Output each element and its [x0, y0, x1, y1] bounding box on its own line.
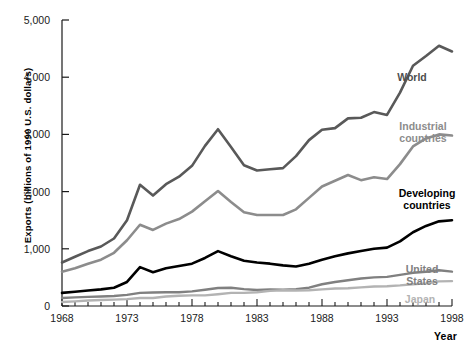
united-states-label: United States [402, 264, 443, 288]
y-tick-label: 4,000 [0, 71, 50, 83]
x-tick-label: 1978 [180, 312, 203, 324]
developing-countries-label: Developing countries [399, 188, 456, 212]
x-tick-label: 1998 [440, 312, 463, 324]
japan-label: Japan [405, 294, 435, 306]
series-line-world [62, 46, 452, 263]
y-tick-label: 3,000 [0, 128, 50, 140]
y-tick-label: 2,000 [0, 186, 50, 198]
industrial-countries-label: Industrial countries [399, 121, 446, 145]
x-tick-label: 1973 [115, 312, 138, 324]
x-tick-label: 1993 [375, 312, 398, 324]
y-tick-label: 5,000 [0, 14, 50, 26]
x-axis-title: Year [434, 330, 457, 342]
x-tick-label: 1968 [50, 312, 73, 324]
y-tick-label: 0 [0, 300, 50, 312]
y-tick-label: 1,000 [0, 243, 50, 255]
series-line-industrial-countries [62, 134, 452, 271]
x-tick-label: 1988 [310, 312, 333, 324]
world-label: World [397, 72, 427, 84]
data-series-group [62, 46, 452, 302]
x-tick-label: 1983 [245, 312, 268, 324]
